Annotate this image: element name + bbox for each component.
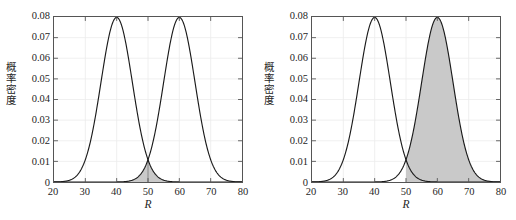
x-tick-label: 30 — [70, 186, 100, 198]
plot-svg-right — [312, 17, 500, 182]
x-axis-title-left: R — [53, 198, 243, 210]
x-tick-label: 70 — [454, 186, 484, 198]
x-tick-label: 60 — [165, 186, 195, 198]
x-tick-label: 80 — [228, 186, 258, 198]
y-tick-label: 0.07 — [4, 32, 50, 43]
x-tick-label: 20 — [38, 186, 68, 198]
y-tick-label: 0.07 — [262, 32, 308, 43]
y-tick-label: 0.01 — [262, 157, 308, 168]
y-tick-label: 0.08 — [4, 11, 50, 22]
x-tick-label: 30 — [328, 186, 358, 198]
plot-area-left — [53, 16, 243, 183]
x-tick-label: 40 — [359, 186, 389, 198]
gridlines-right — [312, 17, 500, 182]
x-tick-label: 50 — [391, 186, 421, 198]
y-tick-label: 0.08 — [262, 11, 308, 22]
x-tick-label: 50 — [133, 186, 163, 198]
y-tick-label: 0.01 — [4, 157, 50, 168]
y-axis-title-right: 概率密度 — [261, 62, 274, 106]
y-tick-label: 0.03 — [262, 115, 308, 126]
plot-area-right — [311, 16, 501, 183]
y-tick-label: 0.03 — [4, 115, 50, 126]
x-tick-label: 60 — [423, 186, 453, 198]
chart-panel-left: 0.08 0.07 0.06 0.05 0.04 0.03 0.02 0.01 … — [0, 0, 258, 220]
x-tick-label: 70 — [196, 186, 226, 198]
y-tick-label: 0.02 — [4, 136, 50, 147]
x-axis-title-right: R — [311, 198, 501, 210]
x-tick-label: 40 — [101, 186, 131, 198]
chart-panel-right: 0.08 0.07 0.06 0.05 0.04 0.03 0.02 0.01 … — [258, 0, 516, 220]
figure-container: 0.08 0.07 0.06 0.05 0.04 0.03 0.02 0.01 … — [0, 0, 516, 220]
y-tick-label: 0.02 — [262, 136, 308, 147]
x-tick-label: 80 — [486, 186, 516, 198]
plot-svg-left — [54, 17, 242, 182]
x-tick-label: 20 — [296, 186, 326, 198]
y-axis-title-left: 概率密度 — [3, 62, 16, 106]
shaded-region — [148, 160, 242, 182]
shaded-region — [54, 160, 148, 182]
